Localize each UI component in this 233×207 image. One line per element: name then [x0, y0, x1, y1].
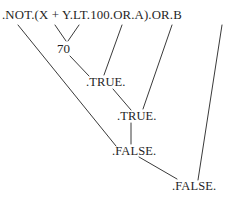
node-sum-value: 70 [57, 42, 70, 55]
edge-x-to-sum [55, 25, 66, 41]
node-or-outer-value: .FALSE. [172, 180, 216, 193]
edge-y-to-sum [68, 25, 79, 41]
edge-sum-to-lt [70, 56, 89, 76]
edge-lt-to-or1 [113, 89, 131, 110]
node-or-inner-value: .TRUE. [117, 110, 157, 123]
edge-const-to-lt [104, 25, 122, 75]
expression-evaluation-diagram: .NOT.(X + Y.LT.100.OR.A).OR.B 70 .TRUE. … [0, 0, 233, 207]
edge-a-to-or1 [143, 25, 172, 109]
edge-b-to-or2 [198, 25, 222, 180]
edge-not-to-or2 [139, 157, 177, 179]
edge-layer [0, 0, 233, 207]
node-expression: .NOT.(X + Y.LT.100.OR.A).OR.B [2, 9, 182, 22]
node-lt-value: .TRUE. [86, 76, 126, 89]
node-not-value: .FALSE. [112, 145, 156, 158]
